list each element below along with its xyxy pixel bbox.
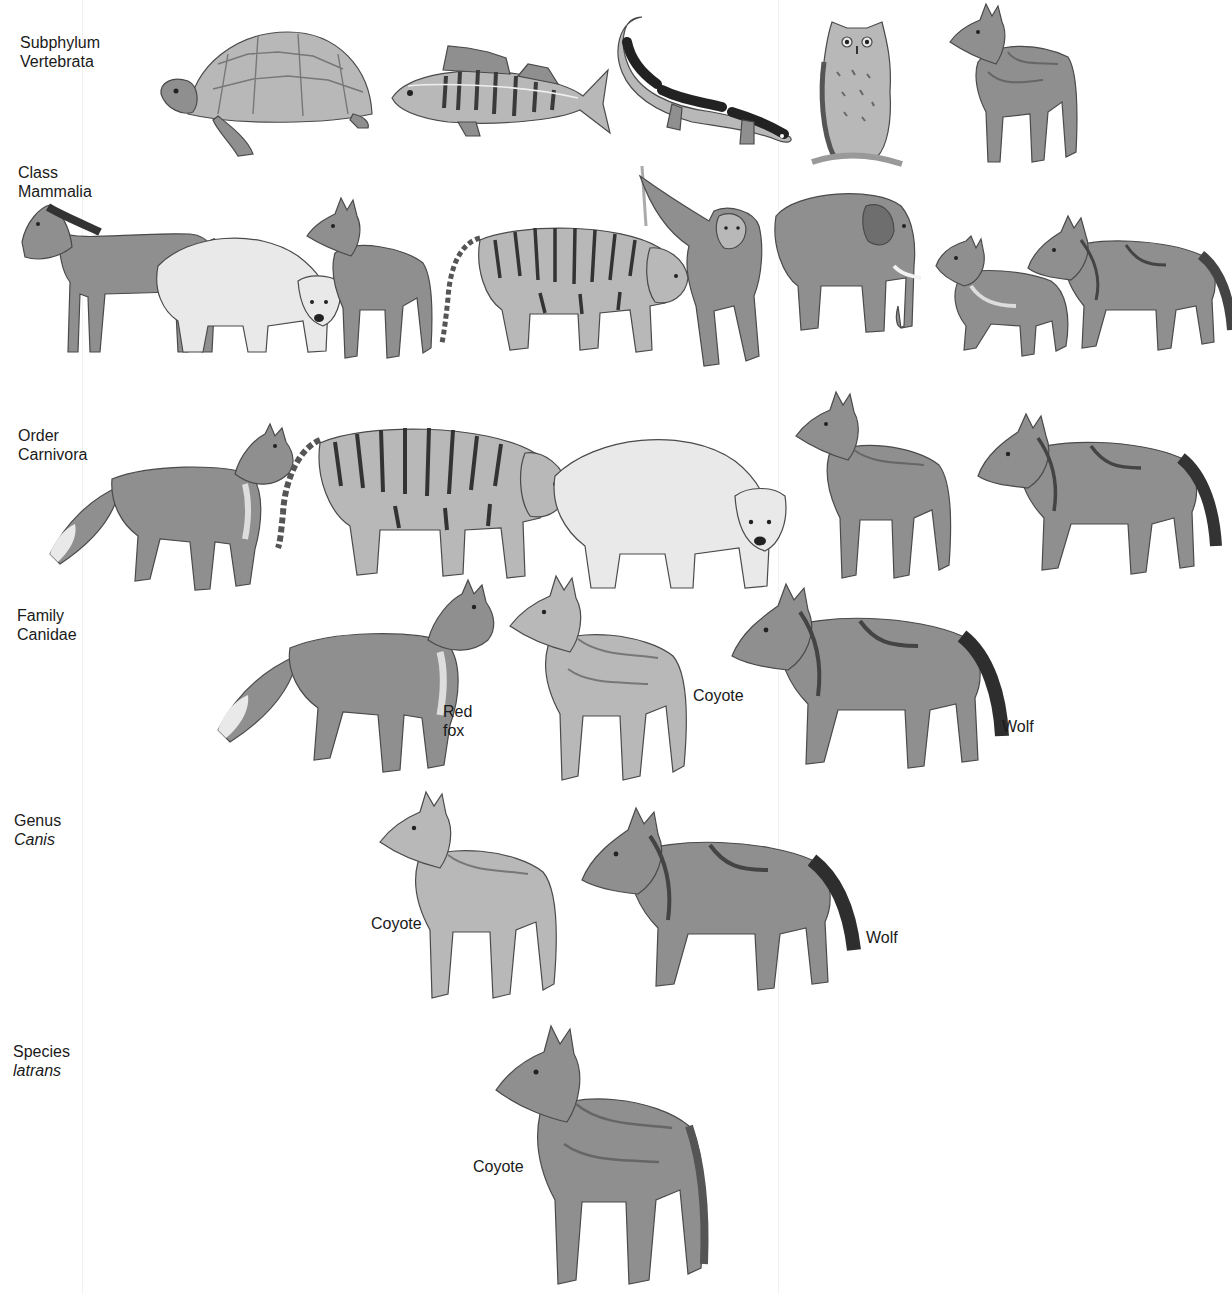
coyote-illustration	[794, 390, 954, 580]
perch-fish-illustration	[388, 38, 610, 142]
coyote-label: Coyote	[693, 686, 744, 705]
wolf-illustration	[1026, 210, 1232, 356]
coyote-label: Coyote	[371, 914, 422, 933]
rank-name: Genus	[14, 811, 61, 830]
red-fox-label: Red fox	[443, 702, 472, 740]
rank-label-genus: Genus Canis	[14, 811, 61, 849]
rank-label-family: Family Canidae	[17, 606, 77, 644]
salamander-illustration	[612, 12, 797, 147]
rank-name: Species	[13, 1042, 70, 1061]
coyote-illustration	[948, 2, 1082, 166]
taxon-name: Canis	[14, 830, 61, 849]
rank-label-class: Class Mammalia	[18, 163, 92, 201]
taxon-name: Canidae	[17, 625, 77, 644]
rank-name: Subphylum	[20, 33, 100, 52]
wolf-illustration	[976, 406, 1216, 580]
wolf-label: Wolf	[866, 928, 898, 947]
rank-name: Family	[17, 606, 77, 625]
turtle-illustration	[158, 24, 383, 160]
wolf-illustration	[580, 800, 856, 998]
elephant-illustration	[766, 186, 926, 336]
taxon-name: latrans	[13, 1061, 70, 1080]
tiger-illustration	[275, 418, 570, 588]
taxon-name: Vertebrata	[20, 52, 100, 71]
owl-illustration	[812, 12, 902, 170]
coyote-illustration	[494, 1024, 708, 1288]
wolf-label: Wolf	[1002, 717, 1034, 736]
coyote-illustration	[508, 574, 690, 782]
wolf-illustration	[730, 576, 1004, 776]
polar-bear-illustration	[545, 426, 789, 592]
coyote-illustration	[378, 790, 560, 1000]
rank-label-species: Species latrans	[13, 1042, 70, 1080]
rank-label-subphylum: Subphylum Vertebrata	[20, 33, 100, 71]
taxon-name: Mammalia	[18, 182, 92, 201]
red-fox-illustration	[218, 580, 494, 774]
coyote-illustration	[305, 198, 435, 360]
red-fox-illustration	[50, 424, 298, 592]
coyote-label: Coyote	[473, 1157, 524, 1176]
rank-name: Class	[18, 163, 92, 182]
